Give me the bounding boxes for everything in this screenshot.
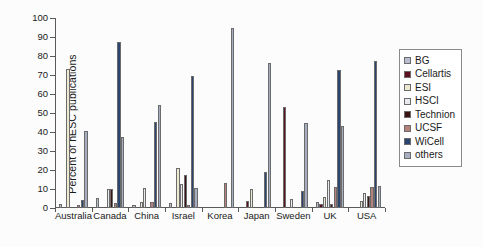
y-axis-tick-label: 50	[37, 108, 48, 118]
chart-root: Percent of hESC publications 01020304050…	[0, 0, 483, 247]
x-axis-category-label: USA	[348, 210, 385, 221]
legend-item[interactable]: ESI	[404, 81, 455, 95]
legend-item[interactable]: WiCell	[404, 135, 455, 149]
legend-item-label: Technion	[415, 110, 455, 120]
bar	[158, 105, 161, 208]
x-axis-category-label: UK	[312, 210, 349, 221]
legend-swatch-icon	[404, 138, 411, 145]
y-axis-tick-label: 10	[37, 184, 48, 194]
bar	[283, 107, 286, 208]
bar	[184, 175, 187, 208]
bar	[59, 204, 62, 208]
legend-item[interactable]: Technion	[404, 108, 455, 122]
bar	[268, 63, 271, 208]
y-axis-tick-label: 30	[37, 146, 48, 156]
bar	[143, 188, 146, 208]
bar-group	[55, 18, 92, 208]
bar	[341, 126, 344, 208]
x-axis-category-label: Israel	[165, 210, 202, 221]
x-axis-category-label: Korea	[202, 210, 239, 221]
y-axis-tick-label: 100	[32, 13, 48, 23]
bar-group	[275, 18, 312, 208]
bar	[66, 69, 69, 208]
legend-swatch-icon	[404, 152, 411, 159]
legend-item-label: others	[415, 150, 443, 160]
legend-swatch-icon	[404, 57, 411, 64]
bar-group	[165, 18, 202, 208]
bar-group	[92, 18, 129, 208]
bar-group	[348, 18, 385, 208]
legend-item-label: WiCell	[415, 137, 444, 147]
legend-item-label: BG	[415, 56, 429, 66]
y-axis-tick-label: 40	[37, 127, 48, 137]
bar	[224, 183, 227, 208]
y-axis-tick-label: 60	[37, 89, 48, 99]
plot-area: 0102030405060708090100 AustraliaCanadaCh…	[55, 18, 385, 208]
y-axis-tick-label: 90	[37, 32, 48, 42]
x-axis-category-label: Australia	[55, 210, 92, 221]
legend-item-label: Cellartis	[415, 69, 451, 79]
bar	[231, 28, 234, 208]
bar-group	[128, 18, 165, 208]
bar	[194, 188, 197, 208]
bar	[121, 137, 124, 208]
legend-item[interactable]: BG	[404, 54, 455, 68]
y-axis-tick-label: 70	[37, 70, 48, 80]
legend-swatch-icon	[404, 84, 411, 91]
legend-item[interactable]: UCSF	[404, 122, 455, 136]
bar	[84, 131, 87, 208]
x-axis-category-label: Sweden	[275, 210, 312, 221]
x-axis-category-label: China	[128, 210, 165, 221]
bar	[250, 189, 253, 208]
bar	[169, 203, 172, 208]
legend-item[interactable]: Cellartis	[404, 68, 455, 82]
legend-item[interactable]: others	[404, 149, 455, 163]
y-axis-tick-label: 80	[37, 51, 48, 61]
bar	[290, 199, 293, 208]
y-axis-tick-label: 0	[43, 203, 48, 213]
bar	[96, 198, 99, 208]
legend-item[interactable]: HSCI	[404, 95, 455, 109]
chart-legend: BGCellartisESIHSCITechnionUCSFWiCellothe…	[399, 49, 462, 167]
bar	[378, 186, 381, 208]
legend-swatch-icon	[404, 71, 411, 78]
bar-group	[238, 18, 275, 208]
x-axis-category-label: Canada	[92, 210, 129, 221]
legend-swatch-icon	[404, 98, 411, 105]
bar	[304, 123, 307, 208]
bar-group	[202, 18, 239, 208]
legend-swatch-icon	[404, 125, 411, 132]
x-axis-category-label: Japan	[238, 210, 275, 221]
bar-group	[312, 18, 349, 208]
bar	[132, 205, 135, 208]
y-axis-tick-label: 20	[37, 165, 48, 175]
legend-item-label: ESI	[415, 83, 431, 93]
x-axis-tick	[385, 208, 386, 212]
legend-swatch-icon	[404, 111, 411, 118]
legend-item-label: UCSF	[415, 123, 442, 133]
legend-item-label: HSCI	[415, 96, 439, 106]
